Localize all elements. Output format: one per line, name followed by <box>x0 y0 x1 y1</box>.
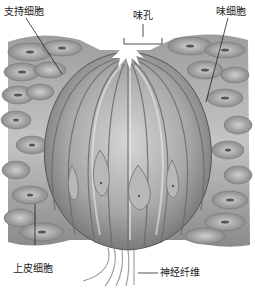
nerve-fibers <box>83 248 134 286</box>
taste-bud-illustration <box>0 0 255 297</box>
nerve-fiber-label: 神经纤维 <box>160 268 200 278</box>
epithelial-cell-label: 上皮细胞 <box>13 264 53 274</box>
taste-cell-label: 味细胞 <box>216 7 246 17</box>
taste-pore-label: 味孔 <box>133 11 153 21</box>
support-cell-label: 支持细胞 <box>4 7 44 17</box>
